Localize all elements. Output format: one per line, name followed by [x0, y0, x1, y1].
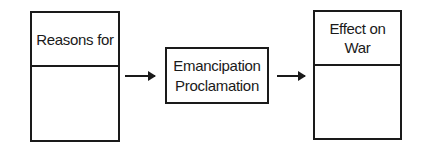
center-line-2: Proclamation	[173, 76, 260, 96]
effect-box: Effect on War	[313, 10, 402, 140]
effect-header-line-1: Effect on	[329, 19, 385, 38]
effect-header: Effect on War	[315, 12, 400, 66]
effect-header-line-2: War	[329, 38, 385, 57]
reasons-header-label: Reasons for	[36, 30, 114, 49]
effect-answer-area[interactable]	[315, 64, 400, 138]
center-line-1: Emancipation	[173, 56, 260, 76]
arrow-right-icon	[277, 75, 305, 77]
emancipation-proclamation-box: Emancipation Proclamation	[165, 47, 269, 104]
arrow-right-icon	[125, 75, 155, 77]
reasons-header: Reasons for	[32, 13, 118, 67]
reasons-answer-area[interactable]	[32, 65, 118, 140]
reasons-box: Reasons for	[30, 11, 120, 142]
